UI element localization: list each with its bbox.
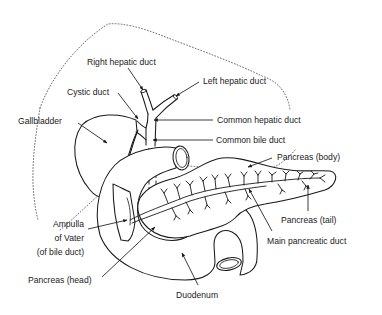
label-cystic-duct: Cystic duct	[67, 87, 110, 97]
common-hepatic-duct-right	[155, 118, 156, 146]
label-duodenum: Duodenum	[176, 290, 218, 300]
label-left-hepatic-duct: Left hepatic duct	[203, 76, 267, 86]
cystic-duct-shape	[137, 114, 148, 128]
label-ampulla-line1: Ampulla	[53, 219, 84, 229]
label-common-hepatic-duct: Common hepatic duct	[217, 115, 301, 125]
leader-left-hepatic	[176, 82, 199, 96]
label-pancreas-head: Pancreas (head)	[28, 275, 92, 285]
label-ampulla-line2: of Vater	[55, 233, 85, 243]
liver-outline	[40, 24, 290, 110]
label-main-pancreatic-duct: Main pancreatic duct	[267, 236, 347, 246]
duodenum-lower-opening	[216, 256, 243, 273]
leader-right-hepatic	[128, 68, 143, 90]
right-hepatic-duct-cut	[140, 89, 146, 94]
biliary-pancreas-diagram: Right hepatic duct Left hepatic duct Cys…	[0, 0, 382, 315]
left-hepatic-duct-shape	[153, 95, 174, 110]
label-pancreas-body: Pancreas (body)	[277, 152, 340, 162]
left-hepatic-duct-shape-2	[156, 99, 177, 118]
cystic-duct-lower	[136, 132, 146, 140]
label-pancreas-tail: Pancreas (tail)	[281, 215, 337, 225]
right-hepatic-duct-shape	[141, 92, 148, 114]
label-ampulla-line3: (of bile duct)	[37, 247, 84, 257]
label-gallbladder: Gallbladder	[18, 116, 62, 126]
leader-cystic	[118, 93, 138, 119]
label-right-hepatic-duct: Right hepatic duct	[87, 57, 156, 67]
label-common-bile-duct: Common bile duct	[216, 135, 286, 145]
right-hepatic-duct-shape-2	[146, 90, 153, 110]
